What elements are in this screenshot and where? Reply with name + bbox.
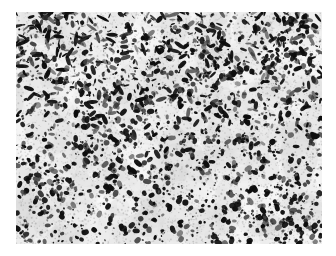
micrograph-image bbox=[16, 12, 322, 244]
micrograph-figure bbox=[16, 12, 322, 244]
page-root bbox=[0, 0, 336, 256]
